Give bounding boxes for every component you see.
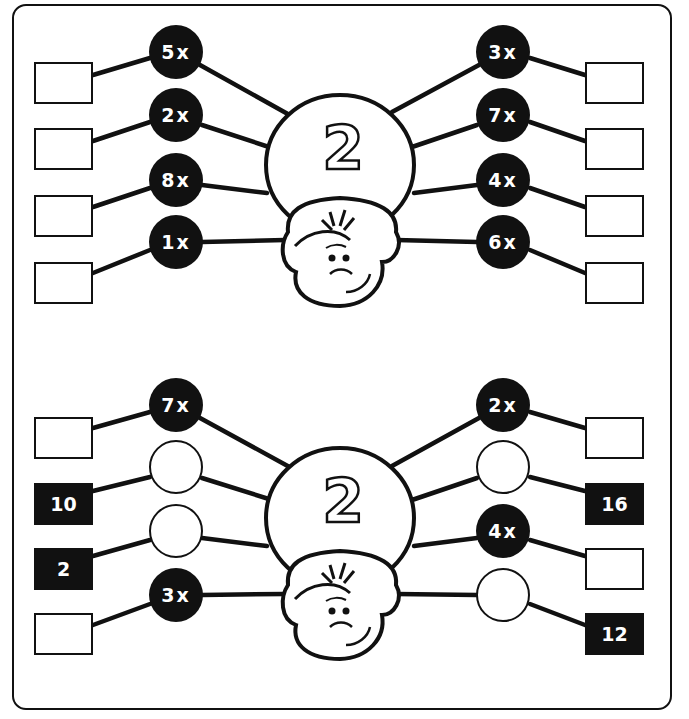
multiplier-circle: 3x xyxy=(149,568,203,622)
spider-bottom-number: 2 xyxy=(313,471,373,531)
multiplier-circle-blank[interactable] xyxy=(476,568,530,622)
answer-box[interactable] xyxy=(585,195,644,237)
multiplier-circle: 7x xyxy=(149,378,203,432)
multiplier-circle: 2x xyxy=(149,88,203,142)
spider-drawings xyxy=(0,0,689,719)
multiplier-circle: 8x xyxy=(149,153,203,207)
multiplier-circle-blank[interactable] xyxy=(476,440,530,494)
multiplier-circle: 1x xyxy=(149,215,203,269)
multiplier-circle: 5x xyxy=(149,25,203,79)
answer-box[interactable] xyxy=(585,417,644,459)
given-answer-box: 10 xyxy=(34,483,93,525)
multiplier-circle: 3x xyxy=(476,25,530,79)
answer-box[interactable] xyxy=(34,417,93,459)
spider-top-number: 2 xyxy=(313,118,373,178)
given-answer-box: 2 xyxy=(34,548,93,590)
answer-box[interactable] xyxy=(585,262,644,304)
given-answer-box: 16 xyxy=(585,483,644,525)
multiplier-circle: 2x xyxy=(476,378,530,432)
answer-box[interactable] xyxy=(585,62,644,104)
answer-box[interactable] xyxy=(34,262,93,304)
multiplier-circle-blank[interactable] xyxy=(149,504,203,558)
multiplier-circle: 6x xyxy=(476,215,530,269)
multiplier-circle: 4x xyxy=(476,504,530,558)
answer-box[interactable] xyxy=(34,613,93,655)
given-answer-box: 12 xyxy=(585,613,644,655)
answer-box[interactable] xyxy=(34,128,93,170)
answer-box[interactable] xyxy=(585,128,644,170)
worksheet: 2 2 5x 2x 8x 1x 3x 7x 4x 6x 7x 3x 2x 4x … xyxy=(0,0,689,719)
multiplier-circle-blank[interactable] xyxy=(149,440,203,494)
multiplier-circle: 4x xyxy=(476,153,530,207)
multiplier-circle: 7x xyxy=(476,88,530,142)
answer-box[interactable] xyxy=(34,195,93,237)
answer-box[interactable] xyxy=(34,62,93,104)
answer-box[interactable] xyxy=(585,548,644,590)
